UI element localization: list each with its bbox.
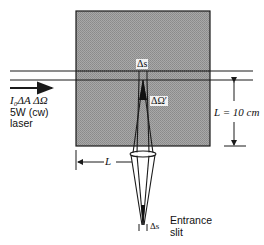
beam-intensity-label: I₀ΔA ΔΩ	[10, 95, 48, 106]
slit-width-label: Δs	[150, 222, 159, 231]
distance-L-left-label: L	[105, 156, 111, 167]
laser-label: laser	[10, 118, 33, 129]
slit-label: slit	[170, 227, 183, 238]
scatter-length-label: Δs	[136, 59, 148, 69]
entrance-slit	[139, 224, 147, 231]
sample-volume	[76, 11, 210, 146]
lens	[130, 151, 156, 157]
diagram-canvas	[0, 0, 264, 245]
solid-angle-label: ΔΩ′	[150, 96, 168, 106]
optical-diagram: I₀ΔA ΔΩ 5W (cw) laser Δs ΔΩ′ L = 10 cm L…	[0, 0, 264, 245]
distance-L-right-label: L = 10 cm	[214, 107, 259, 118]
entrance-label: Entrance	[170, 215, 212, 226]
dimension-L-horizontal	[76, 150, 132, 170]
laser-power-label: 5W (cw)	[10, 107, 49, 118]
